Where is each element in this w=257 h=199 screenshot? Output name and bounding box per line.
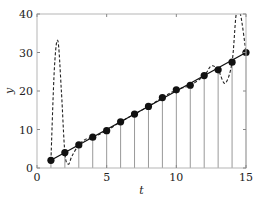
x-axis-label: t	[139, 184, 144, 197]
x-tick-label: 0	[34, 171, 41, 184]
data-point-marker	[89, 134, 96, 141]
chart: 051015010203040 t y	[0, 0, 257, 199]
y-tick-label: 0	[26, 162, 33, 175]
data-point-marker	[159, 94, 166, 101]
data-point-marker	[173, 86, 180, 93]
x-tick-label: 10	[169, 171, 183, 184]
data-point-marker	[187, 82, 194, 89]
data-point-marker	[75, 141, 82, 148]
x-tick-label: 5	[103, 171, 110, 184]
data-point-marker	[131, 111, 138, 118]
data-point-marker	[47, 157, 54, 164]
data-point-marker	[228, 59, 235, 66]
plot-frame	[37, 14, 246, 168]
y-tick-label: 30	[19, 47, 33, 60]
y-tick-label: 40	[19, 8, 33, 21]
data-point-marker	[215, 66, 222, 73]
y-axis-label: y	[3, 87, 16, 95]
data-point-marker	[145, 103, 152, 110]
x-tick-label: 15	[239, 171, 253, 184]
y-tick-label: 10	[19, 124, 33, 137]
data-point-marker	[61, 149, 68, 156]
data-point-marker	[117, 118, 124, 125]
y-tick-label: 20	[19, 85, 33, 98]
data-point-marker	[103, 127, 110, 134]
data-point-marker	[201, 72, 208, 79]
